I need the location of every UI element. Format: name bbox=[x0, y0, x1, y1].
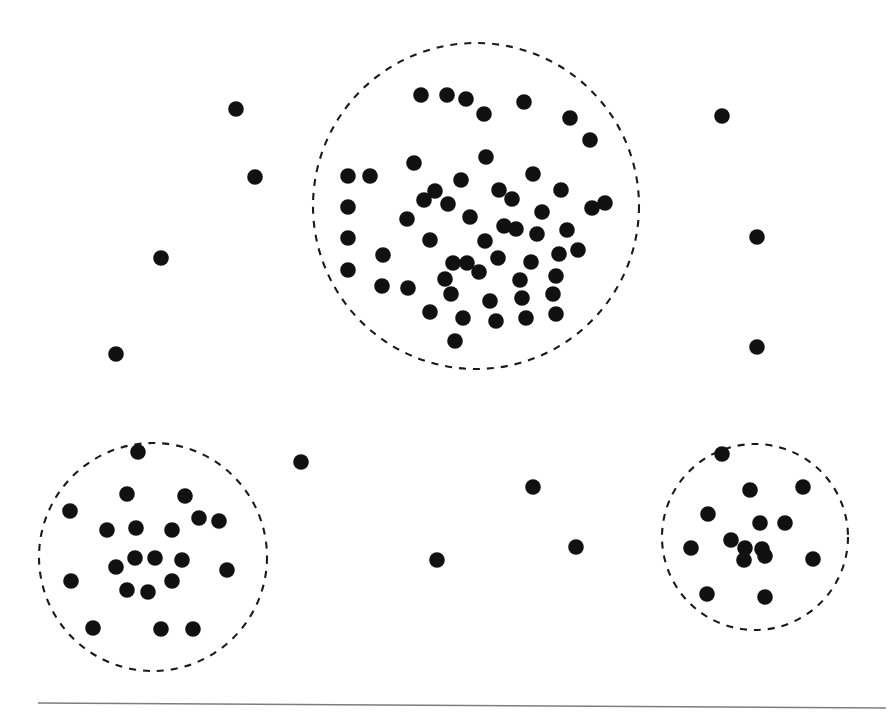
data-point bbox=[185, 621, 201, 637]
data-point bbox=[164, 522, 180, 538]
data-point bbox=[140, 584, 156, 600]
data-point bbox=[340, 230, 356, 246]
data-point bbox=[476, 106, 492, 122]
data-point bbox=[471, 264, 487, 280]
data-point bbox=[523, 254, 539, 270]
data-point bbox=[562, 110, 578, 126]
data-point bbox=[191, 510, 207, 526]
data-point bbox=[699, 586, 715, 602]
data-point bbox=[597, 195, 613, 211]
data-point bbox=[752, 515, 768, 531]
data-point bbox=[795, 479, 811, 495]
data-point bbox=[453, 172, 469, 188]
data-point bbox=[413, 87, 429, 103]
data-point bbox=[514, 290, 530, 306]
data-point bbox=[777, 515, 793, 531]
data-point bbox=[147, 550, 163, 566]
data-point bbox=[429, 552, 445, 568]
data-point bbox=[551, 246, 567, 262]
data-point bbox=[340, 168, 356, 184]
data-point bbox=[228, 101, 244, 117]
data-point bbox=[375, 247, 391, 263]
data-point bbox=[559, 222, 575, 238]
scatter-canvas bbox=[0, 0, 893, 718]
data-point bbox=[416, 192, 432, 208]
data-point bbox=[488, 313, 504, 329]
data-point bbox=[247, 169, 263, 185]
figure-background bbox=[0, 0, 893, 718]
data-point bbox=[406, 155, 422, 171]
data-point bbox=[174, 552, 190, 568]
data-point bbox=[108, 559, 124, 575]
data-point bbox=[534, 204, 550, 220]
data-point bbox=[553, 182, 569, 198]
cluster-scatter-figure bbox=[0, 0, 893, 718]
data-point bbox=[548, 306, 564, 322]
data-point bbox=[462, 209, 478, 225]
data-point bbox=[62, 503, 78, 519]
data-point bbox=[545, 286, 561, 302]
data-point bbox=[529, 226, 545, 242]
data-point bbox=[443, 286, 459, 302]
data-point bbox=[439, 87, 455, 103]
data-point bbox=[440, 196, 456, 212]
data-point bbox=[568, 539, 584, 555]
data-point bbox=[491, 182, 507, 198]
data-point bbox=[437, 271, 453, 287]
data-point bbox=[512, 272, 528, 288]
data-point bbox=[714, 446, 730, 462]
data-point bbox=[482, 293, 498, 309]
data-point bbox=[119, 486, 135, 502]
data-point bbox=[490, 250, 506, 266]
data-point bbox=[525, 166, 541, 182]
data-point bbox=[455, 310, 471, 326]
data-point bbox=[516, 94, 532, 110]
data-point bbox=[570, 242, 586, 258]
data-point bbox=[805, 551, 821, 567]
data-point bbox=[749, 339, 765, 355]
data-point bbox=[128, 520, 144, 536]
data-point bbox=[714, 108, 730, 124]
data-point bbox=[374, 278, 390, 294]
data-point bbox=[99, 522, 115, 538]
data-point bbox=[518, 310, 534, 326]
data-point bbox=[723, 532, 739, 548]
data-point bbox=[504, 191, 520, 207]
data-point bbox=[340, 262, 356, 278]
data-point bbox=[496, 218, 512, 234]
data-point bbox=[548, 268, 564, 284]
data-point bbox=[293, 454, 309, 470]
data-point bbox=[153, 621, 169, 637]
data-point bbox=[477, 233, 493, 249]
data-point bbox=[700, 506, 716, 522]
data-point bbox=[119, 582, 135, 598]
data-point bbox=[525, 479, 541, 495]
data-point bbox=[749, 229, 765, 245]
data-point bbox=[757, 548, 773, 564]
data-point bbox=[400, 280, 416, 296]
data-point bbox=[108, 346, 124, 362]
data-point bbox=[582, 132, 598, 148]
data-point bbox=[422, 304, 438, 320]
data-point bbox=[130, 444, 146, 460]
data-point bbox=[422, 232, 438, 248]
data-point bbox=[219, 562, 235, 578]
data-point bbox=[362, 168, 378, 184]
data-point bbox=[211, 513, 227, 529]
data-point bbox=[447, 333, 463, 349]
data-point bbox=[153, 250, 169, 266]
data-point bbox=[177, 488, 193, 504]
data-point bbox=[742, 482, 758, 498]
data-point bbox=[63, 573, 79, 589]
data-point bbox=[683, 540, 699, 556]
data-point bbox=[736, 552, 752, 568]
data-point bbox=[340, 199, 356, 215]
data-point bbox=[458, 91, 474, 107]
data-point bbox=[85, 620, 101, 636]
data-point bbox=[478, 149, 494, 165]
data-point bbox=[164, 573, 180, 589]
data-point bbox=[445, 255, 461, 271]
data-point bbox=[757, 589, 773, 605]
data-point bbox=[127, 550, 143, 566]
data-point bbox=[399, 211, 415, 227]
